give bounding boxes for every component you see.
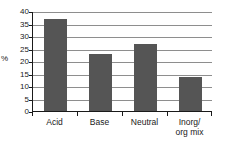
y-axis-tick-label: 35	[20, 21, 29, 29]
bar-slot	[123, 12, 168, 111]
x-axis-tick-label: Inorg/ org mix	[167, 117, 212, 137]
x-axis-tick-mark	[77, 112, 78, 116]
bar	[179, 77, 202, 111]
x-axis-tick-mark	[32, 112, 33, 116]
y-axis-tick-labels: 0510152025303540	[11, 0, 29, 144]
bar	[134, 44, 157, 112]
bar-slot	[33, 12, 78, 111]
bar-series	[33, 12, 212, 111]
y-axis-label: %	[1, 54, 8, 63]
bar-chart: % 0510152025303540 AcidBaseNeutralInorg/…	[0, 0, 225, 144]
x-axis-tick-label: Neutral	[122, 117, 167, 127]
y-axis-tick-label: 15	[20, 71, 29, 79]
x-axis-tick-labels: AcidBaseNeutralInorg/ org mix	[32, 117, 212, 144]
y-axis-tick-label: 10	[20, 83, 29, 91]
bar-slot	[78, 12, 123, 111]
bar	[89, 54, 112, 112]
y-axis-tick-label: 30	[20, 33, 29, 41]
bar	[44, 19, 67, 112]
x-axis-tick-mark	[211, 112, 212, 116]
y-axis-tick-label: 20	[20, 58, 29, 66]
x-axis-tick-label: Acid	[32, 117, 77, 127]
x-axis-tick-label: Base	[77, 117, 122, 127]
y-axis-tick-label: 25	[20, 46, 29, 54]
y-axis-tick-label: 40	[20, 8, 29, 16]
bar-slot	[168, 12, 213, 111]
x-axis-tick-mark	[122, 112, 123, 116]
x-axis-tick-mark	[167, 112, 168, 116]
plot-area	[32, 12, 212, 112]
